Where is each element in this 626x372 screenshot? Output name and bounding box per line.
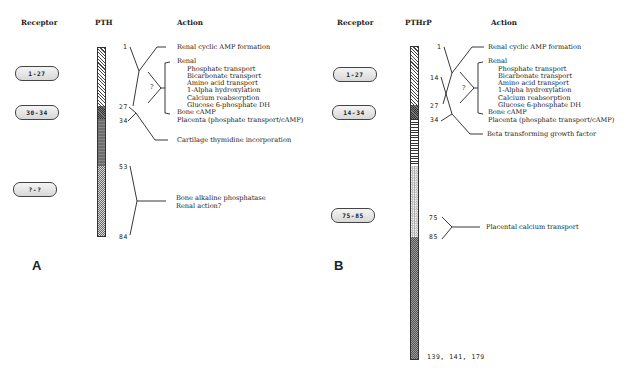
receptor-1-27-a: 1-27 — [15, 66, 59, 81]
action-header-b: Action — [491, 18, 517, 27]
residue-label: 75 — [429, 214, 438, 222]
action-cartilage: Cartilage thymidine incorporation — [177, 137, 291, 144]
bracket-1-27-a — [130, 47, 139, 106]
residue-label: 27 — [119, 103, 128, 111]
pth-header: PTH — [95, 18, 113, 27]
pth-segment-1-27 — [98, 48, 105, 106]
pth-bar — [97, 47, 106, 237]
receptor-30-34: 30-34 — [15, 105, 59, 120]
residue-label: 1 — [437, 43, 441, 51]
panel-letter-b: B — [334, 258, 343, 273]
pthrp-segment-85-179 — [411, 237, 418, 359]
pth-segment-27-34 — [98, 106, 105, 119]
pth-segment-53-84 — [98, 166, 105, 236]
receptor-75-85: 75-85 — [331, 208, 375, 223]
residue-label: 1 — [123, 43, 127, 51]
residue-label: 27 — [430, 102, 439, 110]
residue-label: 14 — [430, 74, 439, 82]
question-mark-a: ? — [150, 84, 154, 91]
receptor-1-27-b: 1-27 — [333, 67, 377, 82]
action-header-a: Action — [177, 18, 203, 27]
pthrp-segment-34-53 — [411, 119, 418, 166]
pthrp-segment-27-34 — [411, 105, 418, 119]
action-renal-camp-a: Renal cyclic AMP formation — [177, 44, 270, 51]
residue-label: 84 — [119, 233, 128, 241]
connector-lines — [0, 0, 626, 372]
pthrp-header: PTHrP — [405, 18, 432, 27]
pthrp-segment-53-85 — [411, 166, 418, 237]
terminal-residue-label: 139, 141, 179 — [427, 353, 485, 361]
pth-segment-34-53 — [98, 119, 105, 166]
residue-label: 53 — [119, 163, 128, 171]
action-placenta-a: Placenta (phosphate transport/cAMP) — [177, 117, 303, 124]
action-renal-camp-b: Renal cyclic AMP formation — [488, 44, 581, 51]
residue-label: 85 — [429, 233, 438, 241]
action-renal-question: Renal action? — [176, 203, 221, 210]
question-mark-b: ? — [462, 85, 466, 92]
action-placenta-b: Placenta (phosphate transport/cAMP) — [488, 117, 614, 124]
receptor-unknown: ?-? — [13, 182, 57, 197]
pthrp-bar — [410, 46, 419, 360]
residue-label: 34 — [430, 116, 439, 124]
receptor-header-a: Receptor — [21, 18, 57, 27]
receptor-14-34: 14-34 — [332, 105, 376, 120]
receptor-header-b: Receptor — [337, 18, 373, 27]
residue-label: 34 — [119, 117, 128, 125]
action-placental-calcium: Placental calcium transport — [486, 224, 579, 231]
panel-letter-a: A — [32, 258, 41, 273]
action-beta-tgf: Beta transforming growth factor — [487, 131, 596, 138]
pthrp-segment-1-27 — [411, 47, 418, 105]
